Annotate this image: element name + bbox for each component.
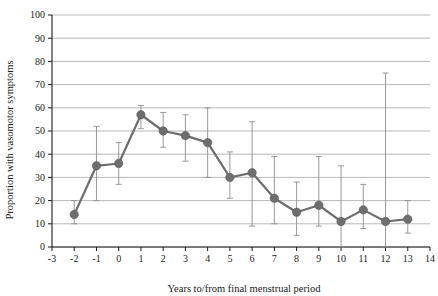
error-bar <box>271 157 277 224</box>
y-tick-label: 30 <box>35 172 45 183</box>
x-tick-label: 14 <box>425 253 435 264</box>
data-point-marker <box>270 194 278 202</box>
x-tick-label: -2 <box>70 253 78 264</box>
x-tick-label: 11 <box>358 253 368 264</box>
y-tick-label: 20 <box>35 195 45 206</box>
x-axis <box>52 247 430 251</box>
data-point-markers <box>70 111 412 226</box>
y-tick-label: 50 <box>35 125 45 136</box>
data-point-marker <box>404 215 412 223</box>
data-point-marker <box>115 159 123 167</box>
x-tick-labels: -3-2-101234567891011121314 <box>48 253 435 264</box>
error-bar <box>316 157 322 227</box>
data-point-marker <box>292 208 300 216</box>
y-tick-label: 10 <box>35 218 45 229</box>
x-tick-label: 6 <box>250 253 255 264</box>
x-tick-label: 10 <box>336 253 346 264</box>
gridlines <box>52 15 430 247</box>
data-point-marker <box>248 169 256 177</box>
error-bar <box>338 166 344 247</box>
y-tick-label: 40 <box>35 149 45 160</box>
data-point-marker <box>92 162 100 170</box>
data-point-marker <box>70 210 78 218</box>
data-point-marker <box>337 217 345 225</box>
y-tick-label: 0 <box>40 241 45 252</box>
y-tick-labels: 0102030405060708090100 <box>30 9 45 252</box>
data-point-marker <box>226 173 234 181</box>
x-tick-label: -3 <box>48 253 56 264</box>
y-tick-label: 70 <box>35 79 45 90</box>
figure-container: 0102030405060708090100 -3-2-101234567891… <box>0 0 438 296</box>
x-tick-label: 8 <box>294 253 299 264</box>
y-tick-label: 100 <box>30 9 45 20</box>
data-point-marker <box>159 127 167 135</box>
data-point-marker <box>315 201 323 209</box>
x-tick-label: 3 <box>183 253 188 264</box>
x-tick-label: 0 <box>116 253 121 264</box>
x-tick-label: 13 <box>403 253 413 264</box>
x-tick-label: 9 <box>316 253 321 264</box>
x-tick-label: 2 <box>161 253 166 264</box>
data-point-marker <box>137 111 145 119</box>
x-tick-label: 7 <box>272 253 277 264</box>
x-tick-label: 1 <box>138 253 143 264</box>
x-tick-label: -1 <box>92 253 100 264</box>
x-tick-label: 4 <box>205 253 210 264</box>
y-tick-label: 60 <box>35 102 45 113</box>
error-bars <box>71 73 411 247</box>
y-tick-label: 90 <box>35 33 45 44</box>
data-point-marker <box>181 131 189 139</box>
data-point-marker <box>359 206 367 214</box>
x-tick-label: 12 <box>381 253 391 264</box>
x-tick-label: 5 <box>227 253 232 264</box>
y-axis-title: Proportion with vasomotor symptoms <box>4 61 15 220</box>
y-axis <box>48 15 52 247</box>
figure-caption-partial <box>0 291 438 296</box>
data-point-marker <box>203 138 211 146</box>
vasomotor-symptoms-line-chart: 0102030405060708090100 -3-2-101234567891… <box>0 0 438 296</box>
y-tick-label: 80 <box>35 56 45 67</box>
data-point-marker <box>381 217 389 225</box>
